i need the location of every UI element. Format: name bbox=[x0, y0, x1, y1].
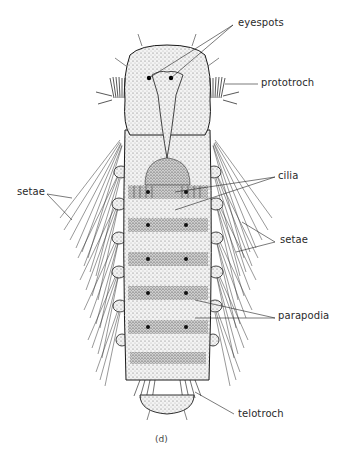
label-parapodia: parapodia bbox=[278, 310, 329, 321]
figure-caption: (d) bbox=[155, 434, 168, 444]
label-eyespots: eyespots bbox=[238, 17, 284, 28]
label-setae-right: setae bbox=[280, 234, 308, 245]
larva-diagram bbox=[0, 0, 345, 458]
pygidium bbox=[140, 395, 194, 414]
setae-left-bundles bbox=[60, 140, 122, 386]
label-prototroch: prototroch bbox=[261, 77, 314, 88]
label-setae-left: setae bbox=[17, 186, 45, 197]
label-telotroch: telotroch bbox=[238, 408, 284, 419]
label-cilia: cilia bbox=[278, 170, 298, 181]
setae-right-bundles bbox=[213, 140, 272, 386]
